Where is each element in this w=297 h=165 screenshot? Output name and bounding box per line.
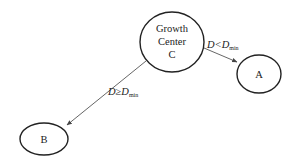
edge-label-d-less-than-dmin: D<Dmin bbox=[206, 39, 239, 51]
node-a: A bbox=[237, 55, 281, 93]
node-c-line-2: Center bbox=[158, 36, 186, 47]
node-b: B bbox=[20, 123, 68, 155]
node-b-label: B bbox=[40, 134, 47, 145]
diagram-canvas: D<Dmin D≥Dmin Growth Center C A B bbox=[0, 0, 297, 165]
edge-label-d-geq-dmin: D≥Dmin bbox=[107, 86, 138, 98]
edge-c-to-b: D≥Dmin bbox=[67, 61, 146, 125]
node-growth-center-c: Growth Center C bbox=[140, 12, 204, 72]
edge-c-to-a: D<Dmin bbox=[204, 39, 239, 62]
node-a-label: A bbox=[255, 69, 263, 80]
node-c-line-1: Growth bbox=[156, 23, 189, 34]
node-c-line-3: C bbox=[168, 49, 175, 60]
